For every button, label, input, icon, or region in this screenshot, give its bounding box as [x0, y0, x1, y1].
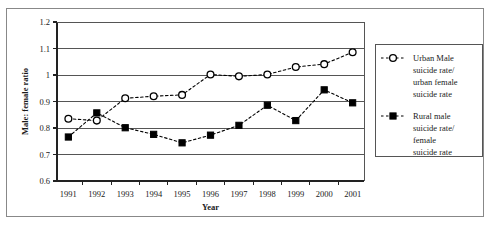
x-axis-title: Year — [202, 202, 219, 212]
x-axis-tick-label: 1998 — [259, 189, 276, 199]
legend-label-line: suicide rate/ — [413, 123, 455, 133]
x-axis-tick-label: 1997 — [230, 189, 247, 199]
legend-label-line: Rural male — [413, 111, 451, 121]
data-point — [65, 134, 71, 140]
data-point — [122, 125, 128, 131]
data-point — [122, 95, 129, 102]
y-axis-tick-label: 0.7 — [39, 150, 50, 160]
chart-canvas: 0.60.70.80.911.11.2199119921993199419951… — [0, 0, 493, 235]
y-axis-tick-label: 0.6 — [39, 176, 50, 186]
x-axis-tick-label: 1993 — [117, 189, 134, 199]
series-0 — [65, 49, 356, 124]
data-point — [349, 49, 356, 56]
data-point — [150, 93, 157, 100]
data-point — [236, 73, 243, 80]
open-circle-icon — [390, 55, 397, 62]
data-point — [264, 102, 270, 108]
data-point — [292, 64, 299, 71]
x-axis-tick-label: 1996 — [202, 189, 219, 199]
legend-label-line: suicide rate — [413, 89, 452, 99]
y-axis-tick-label: 1.1 — [39, 44, 50, 54]
data-point — [350, 100, 356, 106]
data-point — [179, 140, 185, 146]
data-point — [321, 87, 327, 93]
x-axis-tick-label: 1992 — [88, 189, 105, 199]
data-point — [65, 115, 72, 122]
legend-label-line: urban female — [413, 77, 458, 87]
filled-square-icon — [390, 113, 396, 119]
series-line — [68, 52, 352, 120]
figure-container: 0.60.70.80.911.11.2199119921993199419951… — [0, 0, 493, 235]
data-point — [207, 132, 213, 138]
data-point — [179, 91, 186, 98]
legend-label-line: suicide rate/ — [413, 65, 455, 75]
y-axis-tick-label: 1 — [46, 70, 50, 80]
legend-label-line: female — [413, 135, 436, 145]
x-axis-tick-label: 2000 — [316, 189, 333, 199]
legend-label-line: suicide rate — [413, 147, 452, 157]
y-axis-tick-label: 1.2 — [39, 17, 50, 27]
x-axis-tick-label: 1994 — [145, 189, 163, 199]
y-axis-title: Male: female ratio — [20, 68, 30, 135]
data-point — [207, 71, 214, 78]
x-axis-tick-label: 1991 — [60, 189, 77, 199]
data-point — [293, 117, 299, 123]
y-axis-tick-label: 0.8 — [39, 123, 50, 133]
legend-label-line: Urban Male — [413, 53, 454, 63]
x-axis-tick-label: 1995 — [174, 189, 191, 199]
data-point — [151, 131, 157, 137]
data-point — [93, 117, 100, 124]
y-axis-tick-label: 0.9 — [39, 97, 50, 107]
data-point — [264, 71, 271, 78]
x-axis-tick-label: 2001 — [344, 189, 361, 199]
data-point — [94, 110, 100, 116]
series-1 — [65, 87, 355, 146]
data-point — [236, 122, 242, 128]
x-axis-tick-label: 1999 — [287, 189, 304, 199]
data-point — [321, 61, 328, 68]
